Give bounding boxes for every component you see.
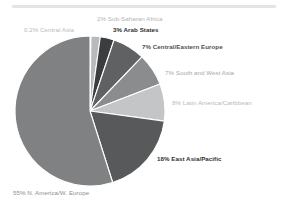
pie-chart-page: 0.2% Central Asia 2% Sub-Saharan Africa … — [0, 0, 288, 204]
pie-label-east-asia-pacific: 18% East Asia/Pacific — [157, 156, 221, 162]
pie-label-south-and-west-asia: 7% South and West Asia — [165, 70, 234, 76]
pie-label-sub-saharan-africa: 2% Sub-Saharan Africa — [97, 16, 162, 22]
pie-label-central-asia: 0.2% Central Asia — [24, 27, 74, 33]
pie-label-north-america-west-europe: 55% N. America/W. Europe — [13, 190, 89, 196]
pie-label-central-eastern-europe: 7% Central/Eastern Europe — [142, 44, 223, 50]
pie-slices-group — [15, 36, 165, 186]
pie-label-latin-america-caribbean: 8% Latin America/Caribbean — [172, 100, 252, 106]
pie-label-arab-states: 3% Arab States — [113, 27, 159, 33]
